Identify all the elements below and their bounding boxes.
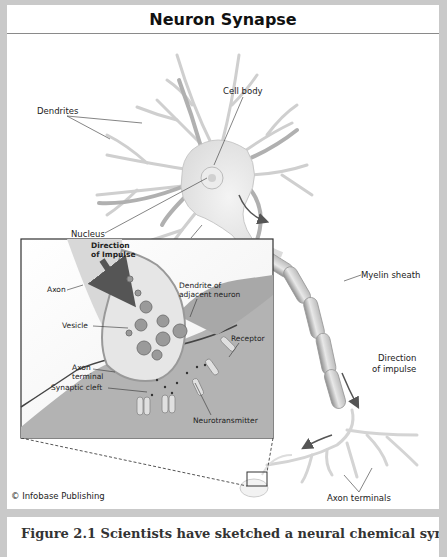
label-nucleus: Nucleus (71, 229, 105, 239)
inset-axon-label: Axon (47, 285, 66, 294)
inset-vesicle-label: Vesicle (62, 321, 88, 330)
inset-direction-label-1: Direction (91, 241, 130, 250)
figure-caption: Figure 2.1 Scientists have sketched a ne… (21, 526, 439, 541)
inset-direction-label-2: of Impulse (91, 250, 135, 259)
inset-dendrite-label-2: adjacent neuron (179, 290, 240, 299)
figure-caption-box: Figure 2.1 Scientists have sketched a ne… (7, 517, 439, 557)
inset-axon-terminal-label-1: Axon (72, 363, 91, 372)
label-myelin-sheath: Myelin sheath (361, 270, 420, 280)
label-direction-impulse-2: of impulse (372, 364, 416, 374)
inset-synaptic-cleft-label: Synaptic cleft (51, 383, 102, 392)
axon-terminal-branches (267, 410, 417, 482)
label-direction-impulse-1: Direction (378, 353, 416, 363)
copyright-credit: © Infobase Publishing (11, 491, 105, 501)
figure-frame: Neuron Synapse (7, 5, 439, 509)
impulse-arrow-terminals (305, 435, 332, 447)
inset-receptor-label: Receptor (231, 334, 266, 343)
inset-dendrite-label-1: Dendrite of (179, 281, 222, 290)
neuron-diagram: Direction of Impulse Axon Dendrite of ad… (7, 35, 439, 509)
label-axon-terminals: Axon terminals (327, 493, 391, 503)
figure-title: Neuron Synapse (149, 10, 296, 29)
inset-neurotransmitter-label: Neurotransmitter (193, 416, 259, 425)
label-cell-body: Cell body (223, 86, 263, 96)
synapse-inset: Direction of Impulse Axon Dendrite of ad… (21, 239, 273, 438)
label-dendrites: Dendrites (37, 106, 79, 116)
title-bar: Neuron Synapse (7, 5, 439, 34)
inset-axon-terminal-label-2: terminal (72, 372, 103, 381)
